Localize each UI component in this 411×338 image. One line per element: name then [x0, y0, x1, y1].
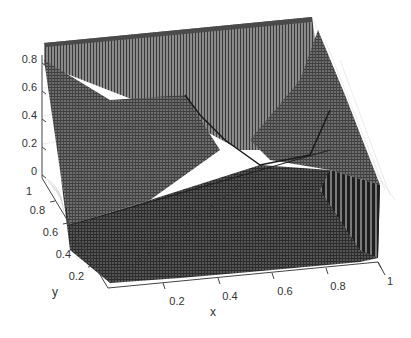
y-tick-0.8: 0.8 [30, 204, 45, 216]
y-tick-0.4: 0.4 [56, 248, 71, 260]
y-tick-0.2: 0.2 [69, 270, 84, 282]
x-tick-1: 1 [387, 275, 393, 287]
x-axis-label: x [210, 305, 216, 319]
z-tick-0.2: 0.2 [22, 137, 37, 149]
x-tick-labels: 0.2 0.4 0.6 0.8 1 [169, 275, 393, 307]
z-tick-0.4: 0.4 [22, 109, 37, 121]
x-tick-0.6: 0.6 [277, 285, 292, 297]
z-tick-0: 0 [31, 165, 37, 177]
x-tick-0.8: 0.8 [330, 280, 345, 292]
z-tick-0.6: 0.6 [22, 81, 37, 93]
x-tick-0.2: 0.2 [169, 295, 184, 307]
surface-plot: 0.8 0.6 0.4 0.2 0 1 0.8 0.6 0.4 0.2 y 0.… [0, 0, 411, 338]
z-tick-labels: 0.8 0.6 0.4 0.2 0 [22, 53, 37, 177]
z-ticks [42, 63, 46, 178]
y-axis-label: y [52, 285, 58, 299]
y-tick-0.6: 0.6 [43, 226, 58, 238]
y-tick-1: 1 [26, 185, 32, 197]
z-tick-0.8: 0.8 [22, 53, 37, 65]
x-tick-0.4: 0.4 [222, 290, 237, 302]
base-contours [45, 178, 64, 212]
